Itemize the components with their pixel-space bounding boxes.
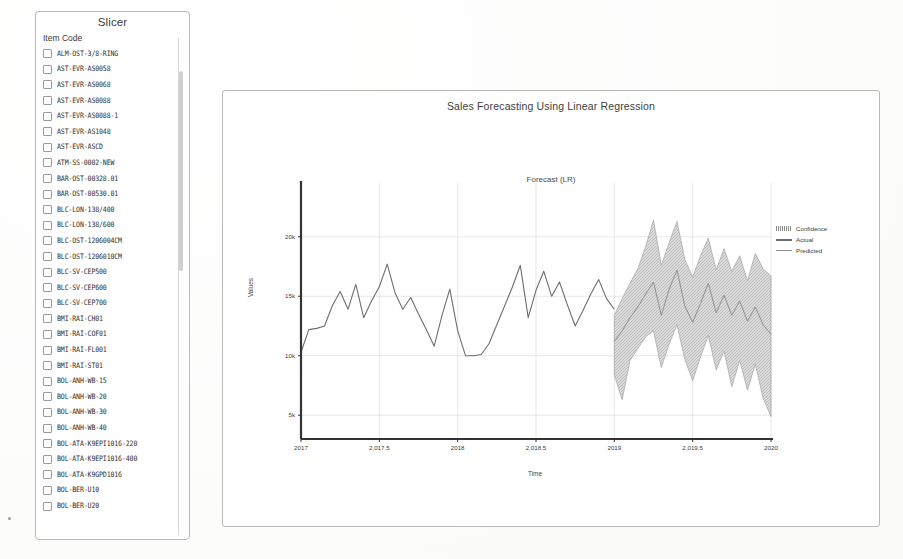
slicer-list-item[interactable]: BOL-ATA-K9EPI1016-400 xyxy=(43,451,173,467)
x-tick-label: 2017 xyxy=(294,444,308,451)
slicer-list-item[interactable]: BOL-ATA-K9EPI1016-220 xyxy=(43,436,173,452)
legend-label-actual: Actual xyxy=(796,236,813,243)
slicer-list-item[interactable]: BLC-LON-138/600 xyxy=(43,218,173,234)
slicer-item-label: BLC-SV-CEP500 xyxy=(57,268,107,277)
y-tick-label: 10k xyxy=(285,352,296,359)
slicer-item-label: BMI-RAI-FL001 xyxy=(57,346,107,355)
slicer-list-item[interactable]: BLC-SV-CEP700 xyxy=(43,296,173,312)
y-tick-label: 20k xyxy=(285,233,296,240)
slicer-list-item[interactable]: BLC-OST-1206004CM xyxy=(43,233,173,249)
checkbox-icon[interactable] xyxy=(43,424,52,433)
checkbox-icon[interactable] xyxy=(43,330,52,339)
slicer-item-label: AST-EVR-AS0088-1 xyxy=(57,112,118,121)
slicer-list-item[interactable]: BMI-RAI-FL001 xyxy=(43,342,173,358)
slicer-list-item[interactable]: BOL-ANH-WB-30 xyxy=(43,405,173,421)
slicer-panel: Slicer Item Code ALM-OST-3/8-RINGAST-EVR… xyxy=(35,11,190,540)
slicer-item-label: AST-EVR-AS0068 xyxy=(57,81,110,90)
checkbox-icon[interactable] xyxy=(43,283,52,292)
slicer-item-label: BOL-ANH-WB-20 xyxy=(57,392,107,401)
legend-label-predicted: Predicted xyxy=(796,247,822,254)
slicer-item-label: BLC-LON-138/600 xyxy=(57,221,114,230)
slicer-list-item[interactable]: BAR-OST-00328.01 xyxy=(43,171,173,187)
legend-item-predicted[interactable]: Predicted xyxy=(776,245,827,256)
slicer-list-item[interactable]: ALM-OST-3/8-RING xyxy=(43,46,173,62)
checkbox-icon[interactable] xyxy=(43,205,52,214)
scan-artifact-dot xyxy=(8,517,11,520)
legend-item-actual[interactable]: Actual xyxy=(776,234,827,245)
slicer-list-item[interactable]: BOL-ANH-WB-15 xyxy=(43,373,173,389)
slicer-item-label: BLC-SV-CEP600 xyxy=(57,283,107,292)
slicer-list-item[interactable]: AST-EVR-ASCD xyxy=(43,140,173,156)
slicer-list-item[interactable]: AST-EVR-AS0088 xyxy=(43,93,173,109)
checkbox-icon[interactable] xyxy=(43,268,52,277)
checkbox-icon[interactable] xyxy=(43,408,52,417)
slicer-list-item[interactable]: BLC-SV-CEP600 xyxy=(43,280,173,296)
slicer-item-label: BLC-OST-1206004CM xyxy=(57,236,122,245)
slicer-list-item[interactable]: BOL-ATA-K9GPD1016 xyxy=(43,467,173,483)
chart-panel: Sales Forecasting Using Linear Regressio… xyxy=(222,90,880,527)
slicer-list-item[interactable]: BOL-BER-U10 xyxy=(43,483,173,499)
slicer-list-item[interactable]: BAR-OST-00530.01 xyxy=(43,186,173,202)
checkbox-icon[interactable] xyxy=(43,80,52,89)
legend-item-confidence[interactable]: Confidence xyxy=(776,223,827,234)
slicer-list-item[interactable]: BOL-ANH-WB-20 xyxy=(43,389,173,405)
slicer-item-label: BOL-ATA-K9EPI1016-400 xyxy=(57,455,137,464)
slicer-item-label: BMI-RAI-ST01 xyxy=(57,361,103,370)
checkbox-icon[interactable] xyxy=(43,127,52,136)
checkbox-icon[interactable] xyxy=(43,439,52,448)
slicer-scrollbar-thumb[interactable] xyxy=(179,71,183,271)
slicer-item-label: BOL-ANH-WB-40 xyxy=(57,424,107,433)
x-tick-label: 2,019.5 xyxy=(682,444,703,451)
slicer-list-item[interactable]: BOL-ANH-WB-40 xyxy=(43,420,173,436)
checkbox-icon[interactable] xyxy=(43,502,52,511)
chart-legend: Confidence Actual Predicted xyxy=(776,223,827,256)
plot-area: 5k10k15k20k20172,017.520182,018.520192,0… xyxy=(223,91,879,526)
checkbox-icon[interactable] xyxy=(43,158,52,167)
slicer-list-item[interactable]: AST-EVR-AS1048 xyxy=(43,124,173,140)
slicer-list-item[interactable]: BOL-BER-U20 xyxy=(43,498,173,514)
checkbox-icon[interactable] xyxy=(43,361,52,370)
checkbox-icon[interactable] xyxy=(43,96,52,105)
slicer-list-item[interactable]: BMI-RAI-ST01 xyxy=(43,358,173,374)
checkbox-icon[interactable] xyxy=(43,65,52,74)
slicer-list-item[interactable]: AST-EVR-AS0088-1 xyxy=(43,108,173,124)
confidence-swatch-icon xyxy=(776,226,792,231)
x-tick-label: 2,017.5 xyxy=(369,444,390,451)
checkbox-icon[interactable] xyxy=(43,236,52,245)
checkbox-icon[interactable] xyxy=(43,486,52,495)
checkbox-icon[interactable] xyxy=(43,143,52,152)
slicer-list-item[interactable]: BMI-RAI-COF01 xyxy=(43,327,173,343)
slicer-item-label: AST-EVR-ASCD xyxy=(57,143,103,152)
slicer-item-label: BOL-ATA-K9GPD1016 xyxy=(57,470,122,479)
slicer-list-item[interactable]: BLC-SV-CEP500 xyxy=(43,264,173,280)
slicer-list-item[interactable]: BLC-OST-1206010CM xyxy=(43,249,173,265)
checkbox-icon[interactable] xyxy=(43,190,52,199)
actual-swatch-icon xyxy=(776,239,792,241)
slicer-list-item[interactable]: AST-EVR-AS0058 xyxy=(43,62,173,78)
slicer-item-label: ALM-OST-3/8-RING xyxy=(57,49,118,58)
checkbox-icon[interactable] xyxy=(43,49,52,58)
checkbox-icon[interactable] xyxy=(43,174,52,183)
x-tick-label: 2018 xyxy=(451,444,465,451)
checkbox-icon[interactable] xyxy=(43,346,52,355)
y-tick-label: 15k xyxy=(285,292,296,299)
slicer-list-item[interactable]: BMI-RAI-CH01 xyxy=(43,311,173,327)
checkbox-icon[interactable] xyxy=(43,252,52,261)
checkbox-icon[interactable] xyxy=(43,377,52,386)
slicer-list-item[interactable]: BLC-LON-138/400 xyxy=(43,202,173,218)
slicer-list-item[interactable]: AST-EVR-AS0068 xyxy=(43,77,173,93)
slicer-item-label: BOL-ANH-WB-15 xyxy=(57,377,107,386)
checkbox-icon[interactable] xyxy=(43,314,52,323)
checkbox-icon[interactable] xyxy=(43,392,52,401)
checkbox-icon[interactable] xyxy=(43,470,52,479)
slicer-item-label: AST-EVR-AS0088 xyxy=(57,96,110,105)
slicer-item-list: ALM-OST-3/8-RINGAST-EVR-AS0058AST-EVR-AS… xyxy=(36,46,189,514)
checkbox-icon[interactable] xyxy=(43,455,52,464)
checkbox-icon[interactable] xyxy=(43,299,52,308)
slicer-item-label: BOL-ATA-K9EPI1016-220 xyxy=(57,439,137,448)
checkbox-icon[interactable] xyxy=(43,221,52,230)
slicer-scrollbar-track[interactable] xyxy=(178,38,187,535)
slicer-list-item[interactable]: ATM-SS-0002-NEW xyxy=(43,155,173,171)
x-tick-label: 2019 xyxy=(607,444,621,451)
checkbox-icon[interactable] xyxy=(43,112,52,121)
